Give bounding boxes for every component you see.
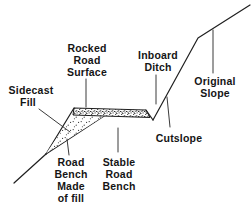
road-bench-fill-label-line4: of fill <box>58 192 84 204</box>
inboard-ditch-label: Inboard Ditch <box>138 49 178 73</box>
stable-road-bench-label-line3: Bench <box>102 180 135 192</box>
inboard-ditch-label-line1: Inboard <box>138 49 178 61</box>
original-slope-label-line1: Original <box>194 75 235 87</box>
sidecast-fill-label-line2: Fill <box>20 96 36 108</box>
rocked-road-surface-label-line3: Surface <box>67 66 107 78</box>
rocked-road-surface-label-line1: Rocked <box>67 42 106 54</box>
original-slope-label: Original Slope <box>194 75 235 99</box>
road-bench-made-of-fill-label: Road Bench Made of fill <box>54 156 87 204</box>
original-ground-line <box>14 154 46 183</box>
road-bench-fill-label-line3: Made <box>57 180 85 192</box>
stable-road-bench-label: Stable Road Bench <box>102 156 135 192</box>
inboard-ditch-label-line2: Ditch <box>144 61 171 73</box>
cutslope-label-line1: Cutslope <box>156 132 203 144</box>
sidecast-fill-label: Sidecast Fill <box>9 84 54 108</box>
cutslope-label: Cutslope <box>156 132 203 144</box>
road-bench-fill-leader <box>67 139 69 155</box>
road-cross-section-diagram: Rocked Road Surface Sidecast Fill Inboar… <box>0 0 252 221</box>
sidecast-fill-label-line1: Sidecast <box>9 84 54 96</box>
cutslope-leader <box>167 97 170 127</box>
sidecast-fill-leader <box>39 109 70 132</box>
road-bench-fill-label-line2: Bench <box>54 168 87 180</box>
stable-road-bench-label-line2: Road <box>105 168 132 180</box>
stable-road-bench-label-line1: Stable <box>103 156 136 168</box>
rocked-road-surface-label: Rocked Road Surface <box>67 42 107 78</box>
rocked-road-surface-label-line2: Road <box>73 54 100 66</box>
road-bench-fill-label-line1: Road <box>57 156 84 168</box>
diagram-canvas: Rocked Road Surface Sidecast Fill Inboar… <box>0 0 252 221</box>
original-slope-label-line2: Slope <box>200 87 230 99</box>
